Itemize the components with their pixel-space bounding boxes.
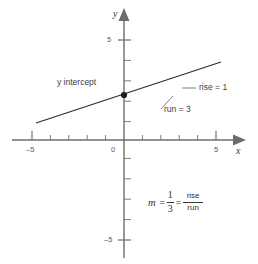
rise-annotation: rise = 1: [199, 83, 227, 92]
slope-word-denominator: run: [186, 204, 200, 212]
slope-word-fraction: rise run: [183, 192, 203, 212]
y-axis-arrowhead: [119, 8, 130, 21]
y-axis-label: y: [113, 9, 117, 19]
slope-numeric-fraction: 1 3: [167, 190, 174, 214]
x-axis-arrowhead: [233, 135, 246, 146]
run-annotation: run = 3: [164, 105, 191, 114]
y-intercept-annotation: y intercept: [57, 78, 96, 87]
x-axis-label: x: [236, 146, 240, 156]
slope-equals-2: =: [176, 197, 181, 207]
y-intercept-point: [121, 92, 127, 98]
slope-formula: m = 1 3 = rise run: [148, 190, 203, 214]
slope-fraction-numerator: 1: [167, 190, 174, 201]
x-tick-label-0: 0: [111, 146, 115, 154]
plotted-line: [36, 62, 221, 123]
slope-fraction-denominator: 3: [167, 204, 174, 215]
slope-variable: m: [148, 197, 156, 208]
y-tick-label-5: 5: [107, 36, 111, 44]
graph-figure: y x 5 –5 –5 0 5 y intercept rise = 1 run…: [0, 0, 258, 264]
x-tick-label-5: 5: [214, 146, 218, 154]
slope-equals-1: =: [160, 197, 165, 207]
slope-word-numerator: rise: [186, 192, 201, 200]
y-tick-label-neg5: –5: [104, 236, 112, 244]
coordinate-plane-svg: [0, 0, 258, 264]
x-tick-label-neg5: –5: [26, 146, 34, 154]
